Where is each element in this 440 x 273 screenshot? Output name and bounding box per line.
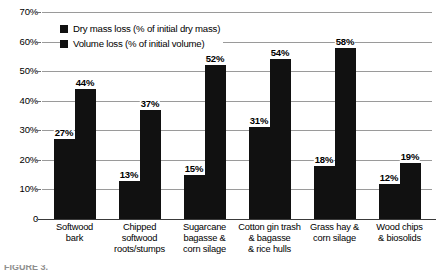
bar-container: 27% xyxy=(54,139,75,219)
y-axis-tick-label: 70% xyxy=(2,7,38,17)
bar[interactable]: 15% xyxy=(184,175,205,219)
y-axis-tick-mark xyxy=(36,160,41,161)
x-axis-category-line: & biosolids xyxy=(368,233,431,244)
bar-value-label: 52% xyxy=(205,54,225,64)
y-axis-tick-label: 20% xyxy=(2,155,38,165)
bar-container: 52% xyxy=(205,65,226,219)
bar-container: 54% xyxy=(270,59,291,219)
y-axis-tick-label: 50% xyxy=(2,66,38,76)
bar-container: 19% xyxy=(400,163,421,219)
bar-container: 15% xyxy=(184,175,205,219)
bar[interactable]: 44% xyxy=(75,89,96,219)
bar-value-label: 44% xyxy=(75,78,95,88)
y-axis-tick-mark xyxy=(36,42,41,43)
x-axis-category-line: & rice hulls xyxy=(238,244,301,255)
x-axis-category-line: Chipped xyxy=(108,222,171,233)
bar-value-label: 13% xyxy=(119,170,139,180)
bar-value-label: 27% xyxy=(54,128,74,138)
bar-chart: 70%60%50%40%30%20%10%0 27%44%13%37%15%52… xyxy=(0,0,440,273)
bar-value-label: 12% xyxy=(379,173,399,183)
bar-value-label: 18% xyxy=(314,155,334,165)
x-axis-category-line: Cotton gin trash xyxy=(238,222,301,233)
x-axis-category-line: bagasse & xyxy=(173,233,236,244)
y-axis-tick-mark xyxy=(36,71,41,72)
y-axis-tick-mark xyxy=(36,12,41,13)
y-axis-tick-label: 10% xyxy=(2,184,38,194)
bar[interactable]: 37% xyxy=(140,110,161,219)
bar[interactable]: 58% xyxy=(335,48,356,220)
bar-group: 18%58% xyxy=(302,12,367,219)
bar-container: 31% xyxy=(249,127,270,219)
bar-pair: 13%37% xyxy=(119,110,161,219)
legend: Dry mass loss (% of initial dry mass) Vo… xyxy=(60,22,223,52)
x-axis-category-label: Cotton gin trash& bagasse& rice hulls xyxy=(237,222,302,256)
x-axis-labels: SoftwoodbarkChippedsoftwoodroots/stumpsS… xyxy=(42,222,432,256)
legend-item-label: Dry mass loss (% of initial dry mass) xyxy=(73,24,220,34)
bar[interactable]: 52% xyxy=(205,65,226,219)
x-axis-category-line: corn silage xyxy=(303,233,366,244)
x-axis-category-label: Softwoodbark xyxy=(42,222,107,256)
x-axis-category-line: bark xyxy=(43,233,106,244)
bar[interactable]: 13% xyxy=(119,181,140,219)
bar-value-label: 31% xyxy=(249,116,269,126)
y-axis-tick-label: 0 xyxy=(2,214,38,224)
bar-value-label: 15% xyxy=(184,164,204,174)
figure-caption-text: FIGURE 3. xyxy=(4,265,124,272)
bar-group: 31%54% xyxy=(237,12,302,219)
bar[interactable]: 31% xyxy=(249,127,270,219)
legend-item-dry-mass-loss: Dry mass loss (% of initial dry mass) xyxy=(60,22,223,35)
x-axis-category-label: Chippedsoftwoodroots/stumps xyxy=(107,222,172,256)
x-axis-category-line: softwood xyxy=(108,233,171,244)
y-axis-tick-label: 60% xyxy=(2,37,38,47)
figure-caption-clipped: FIGURE 3. xyxy=(4,265,124,273)
bar-value-label: 54% xyxy=(270,48,290,58)
bar-pair: 15%52% xyxy=(184,65,226,219)
legend-swatch-icon xyxy=(60,40,68,48)
legend-item-volume-loss: Volume loss (% of initial volume) xyxy=(60,37,223,50)
x-axis-category-line: roots/stumps xyxy=(108,244,171,255)
bar-container: 18% xyxy=(314,166,335,219)
x-axis-category-label: Sugarcanebagasse &corn silage xyxy=(172,222,237,256)
bar-pair: 31%54% xyxy=(249,59,291,219)
legend-item-label: Volume loss (% of initial volume) xyxy=(73,39,205,49)
x-axis-category-line: corn silage xyxy=(173,244,236,255)
x-axis-category-line: Sugarcane xyxy=(173,222,236,233)
y-axis-tick-label: 40% xyxy=(2,96,38,106)
bar-container: 13% xyxy=(119,181,140,219)
legend-swatch-icon xyxy=(60,25,68,33)
x-axis-category-line: & bagasse xyxy=(238,233,301,244)
bar-pair: 12%19% xyxy=(379,163,421,219)
bar-pair: 27%44% xyxy=(54,89,96,219)
bar-pair: 18%58% xyxy=(314,48,356,220)
y-axis-tick-mark xyxy=(36,101,41,102)
bar-container: 12% xyxy=(379,184,400,219)
x-axis-category-line: Softwood xyxy=(43,222,106,233)
y-axis-tick-label: 30% xyxy=(2,125,38,135)
bar[interactable]: 18% xyxy=(314,166,335,219)
x-axis-category-line: Grass hay & xyxy=(303,222,366,233)
y-axis-tick-mark xyxy=(36,189,41,190)
bar-value-label: 37% xyxy=(140,99,160,109)
bar-group: 12%19% xyxy=(367,12,432,219)
bar-container: 37% xyxy=(140,110,161,219)
bar-container: 58% xyxy=(335,48,356,220)
bar-container: 44% xyxy=(75,89,96,219)
y-axis-tick-mark xyxy=(36,130,41,131)
bar[interactable]: 54% xyxy=(270,59,291,219)
bar[interactable]: 19% xyxy=(400,163,421,219)
x-axis-category-line: Wood chips xyxy=(368,222,431,233)
x-axis-category-label: Wood chips& biosolids xyxy=(367,222,432,256)
x-axis-category-label: Grass hay &corn silage xyxy=(302,222,367,256)
bar-value-label: 19% xyxy=(400,152,420,162)
bar[interactable]: 12% xyxy=(379,184,400,219)
bar-value-label: 58% xyxy=(335,37,355,47)
bar[interactable]: 27% xyxy=(54,139,75,219)
